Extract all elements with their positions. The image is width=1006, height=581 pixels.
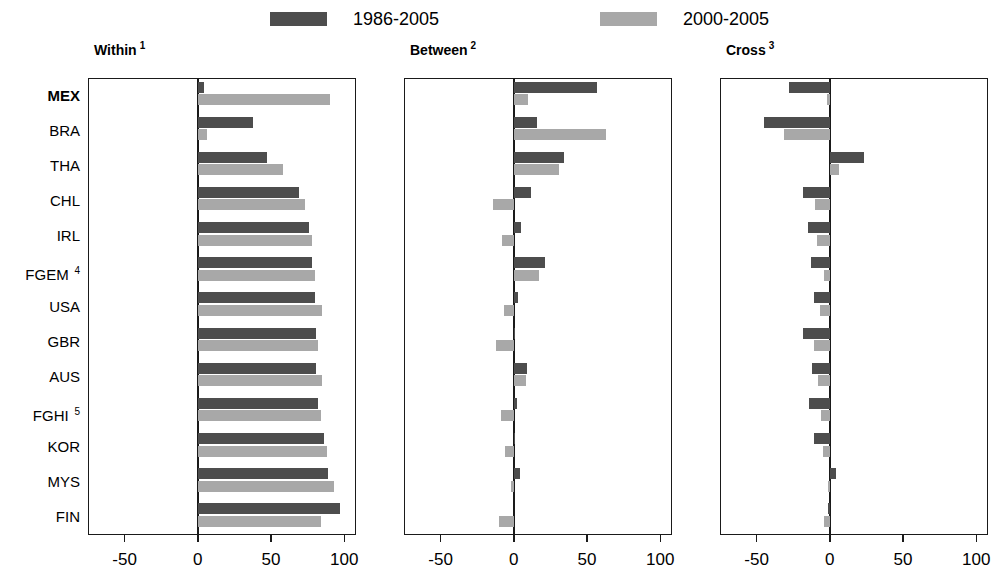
bar-usa-2000-2005	[820, 305, 830, 316]
country-code-text: GBR	[47, 333, 80, 350]
bar-kor-2000-2005	[198, 446, 327, 457]
legend-swatch-2000-2005	[600, 12, 657, 26]
bar-tha-1986-2005	[830, 152, 864, 163]
bar-mys-1986-2005	[830, 468, 836, 479]
bar-irl-2000-2005	[817, 235, 830, 246]
bar-usa-1986-2005	[198, 292, 315, 303]
bar-tha-1986-2005	[514, 152, 564, 163]
bar-mex-1986-2005	[198, 82, 204, 93]
bar-fgem-1986-2005	[811, 257, 830, 268]
bar-mex-2000-2005	[827, 94, 830, 105]
panel-title-text: Within	[94, 42, 137, 58]
country-label-irl: IRL	[57, 228, 80, 243]
country-code-text: AUS	[49, 368, 80, 385]
bar-tha-2000-2005	[830, 164, 839, 175]
bar-mex-2000-2005	[198, 94, 330, 105]
bar-mex-1986-2005	[514, 82, 597, 93]
bar-gbr-1986-2005	[803, 328, 829, 339]
bar-irl-2000-2005	[198, 235, 312, 246]
bar-chl-2000-2005	[493, 199, 514, 210]
country-label-tha: THA	[50, 158, 80, 173]
bar-mys-1986-2005	[514, 468, 520, 479]
x-tick-label-0: 0	[509, 551, 518, 568]
x-tick-label-50: 50	[262, 551, 281, 568]
bar-fghi-1986-2005	[514, 398, 517, 409]
bar-fin-1986-2005	[828, 503, 830, 514]
bar-mys-2000-2005	[828, 481, 830, 492]
bar-bra-2000-2005	[514, 129, 606, 140]
x-tick-label--50: -50	[112, 551, 137, 568]
bar-fgem-2000-2005	[514, 270, 539, 281]
x-tick--50	[440, 535, 441, 542]
x-tick-label-50: 50	[578, 551, 597, 568]
bar-tha-1986-2005	[198, 152, 267, 163]
x-tick-50	[586, 535, 587, 542]
bar-fghi-2000-2005	[821, 410, 830, 421]
bar-fgem-1986-2005	[514, 257, 545, 268]
bar-fin-2000-2005	[824, 516, 830, 527]
x-tick-label--50: -50	[744, 551, 769, 568]
figure-chart-panels: 1986-2005 2000-2005 MEXBRATHACHLIRLFGEM …	[0, 0, 1006, 581]
x-tick-label-100: 100	[962, 551, 990, 568]
bar-irl-1986-2005	[198, 222, 309, 233]
bar-irl-1986-2005	[514, 222, 521, 233]
bar-fin-2000-2005	[198, 516, 321, 527]
country-code-text: KOR	[47, 438, 80, 455]
bar-kor-1986-2005	[514, 433, 516, 444]
bar-gbr-2000-2005	[496, 340, 514, 351]
bar-bra-1986-2005	[514, 117, 537, 128]
country-label-gbr: GBR	[47, 334, 80, 349]
country-code-text: MYS	[47, 473, 80, 490]
country-label-aus: AUS	[49, 369, 80, 384]
x-tick-label-0: 0	[193, 551, 202, 568]
country-label-fgem: FGEM 4	[25, 263, 80, 282]
bar-fgem-2000-2005	[198, 270, 315, 281]
country-code-text: MEX	[47, 87, 80, 104]
bar-chl-2000-2005	[815, 199, 830, 210]
bar-tha-2000-2005	[198, 164, 283, 175]
country-code-text: IRL	[57, 227, 80, 244]
country-label-fghi: FGHI 5	[33, 404, 80, 423]
panel-title-text: Between	[410, 42, 468, 58]
panel-footnote-marker: 2	[471, 40, 477, 51]
bar-bra-2000-2005	[198, 129, 207, 140]
x-tick-label--50: -50	[428, 551, 453, 568]
x-tick-label-100: 100	[646, 551, 674, 568]
bar-usa-1986-2005	[814, 292, 830, 303]
x-tick-label-100: 100	[330, 551, 358, 568]
country-code-text: THA	[50, 157, 80, 174]
country-code-text: FIN	[56, 508, 80, 525]
bar-aus-1986-2005	[198, 363, 317, 374]
bar-mys-2000-2005	[511, 481, 514, 492]
bar-bra-2000-2005	[784, 129, 829, 140]
bar-chl-1986-2005	[803, 187, 829, 198]
country-labels-axis: MEXBRATHACHLIRLFGEM 4USAGBRAUSFGHI 5KORM…	[0, 78, 88, 535]
bar-aus-2000-2005	[818, 375, 830, 386]
x-tick-0	[197, 535, 198, 542]
bar-kor-2000-2005	[505, 446, 514, 457]
bar-aus-1986-2005	[514, 363, 527, 374]
country-label-chl: CHL	[50, 193, 80, 208]
plot-frame	[404, 78, 672, 535]
bar-aus-2000-2005	[514, 375, 526, 386]
x-tick-100	[344, 535, 345, 542]
plot-panel-within: -50050100	[88, 78, 356, 535]
country-code-text: USA	[49, 298, 80, 315]
bar-mys-2000-2005	[198, 481, 334, 492]
bar-fghi-1986-2005	[198, 398, 318, 409]
bar-gbr-2000-2005	[198, 340, 318, 351]
x-tick-0	[829, 535, 830, 542]
bar-mys-1986-2005	[198, 468, 328, 479]
country-label-bra: BRA	[49, 123, 80, 138]
plot-panel-between: -50050100	[404, 78, 672, 535]
country-code-text: BRA	[49, 122, 80, 139]
country-label-mex: MEX	[47, 88, 80, 103]
bar-fghi-1986-2005	[809, 398, 830, 409]
bar-kor-2000-2005	[823, 446, 830, 457]
x-tick--50	[756, 535, 757, 542]
x-tick-100	[660, 535, 661, 542]
bar-fgem-1986-2005	[198, 257, 312, 268]
country-label-kor: KOR	[47, 439, 80, 454]
plot-panel-cross: -50050100	[720, 78, 988, 535]
x-tick-50	[270, 535, 271, 542]
